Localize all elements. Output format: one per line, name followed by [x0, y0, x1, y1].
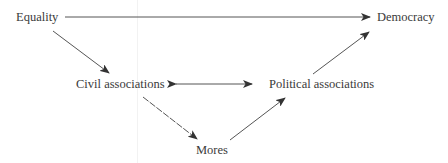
node-equality: Equality [16, 11, 58, 24]
arrow-equality-civil [53, 31, 109, 73]
node-mores: Mores [196, 144, 228, 157]
arrow-civil-mores [143, 97, 197, 139]
node-civil-associations: Civil associations [76, 78, 165, 91]
arrow-political-democracy [313, 32, 369, 74]
diagram-arrows [0, 0, 448, 163]
arrow-mores-political [230, 98, 285, 140]
node-political-associations: Political associations [269, 78, 374, 91]
node-democracy: Democracy [377, 11, 435, 24]
